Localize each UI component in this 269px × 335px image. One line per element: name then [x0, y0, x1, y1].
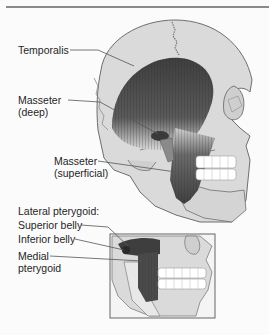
label-lateral-pterygoid: Lateral pterygoid: — [18, 205, 99, 217]
label-superior-belly: Superior belly — [18, 219, 82, 231]
skull-upper — [94, 20, 252, 222]
label-masseter-deep-line2: (deep) — [18, 106, 61, 118]
label-temporalis: Temporalis — [18, 44, 69, 56]
label-masseter-deep: Masseter (deep) — [18, 94, 61, 118]
label-medial-pterygoid-line1: Medial — [18, 250, 61, 262]
label-masseter-superficial: Masseter (superficial) — [54, 155, 108, 179]
label-masseter-superficial-line2: (superficial) — [54, 167, 108, 179]
label-masseter-deep-line1: Masseter — [18, 94, 61, 106]
inset-panel — [110, 234, 215, 318]
label-medial-pterygoid: Medial pterygoid — [18, 250, 61, 274]
label-inferior-belly: Inferior belly — [18, 233, 75, 245]
label-medial-pterygoid-line2: pterygoid — [18, 262, 61, 274]
label-masseter-superficial-line1: Masseter — [54, 155, 108, 167]
teeth-upper — [196, 156, 236, 180]
